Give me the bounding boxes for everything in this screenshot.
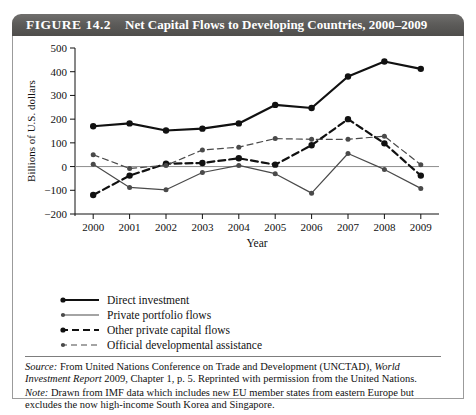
svg-text:400: 400 — [51, 66, 68, 78]
figure-number-label: FIGURE 14.2 — [12, 17, 111, 33]
source-text-1: From United Nations Conference on Trade … — [57, 361, 374, 372]
svg-text:2005: 2005 — [264, 221, 287, 233]
figure-container: FIGURE 14.2 Net Capital Flows to Develop… — [12, 14, 464, 399]
svg-text:2008: 2008 — [373, 221, 396, 233]
legend-label-other-private-capital-flows: Other private capital flows — [101, 324, 230, 336]
figure-title: Net Capital Flows to Developing Countrie… — [111, 17, 427, 33]
legend-key-other-private-capital-flows — [59, 323, 101, 337]
svg-text:2001: 2001 — [119, 221, 141, 233]
data-note: Note: Drawn from IMF data which includes… — [25, 387, 445, 412]
svg-text:2009: 2009 — [410, 221, 433, 233]
svg-text:2006: 2006 — [301, 221, 324, 233]
legend-key-official-developmental-assistance — [59, 338, 101, 352]
note-prefix: Note: — [25, 387, 48, 398]
notes-divider — [25, 356, 441, 357]
chart-plot-area: 5004003002001000−100−2002000200120022003… — [21, 40, 457, 290]
line-chart: 5004003002001000−100−2002000200120022003… — [21, 40, 457, 290]
legend-item-direct-investment: Direct investment — [59, 292, 389, 307]
legend-label-direct-investment: Direct investment — [101, 294, 189, 306]
svg-text:−100: −100 — [44, 184, 67, 196]
figure-body: 5004003002001000−100−2002000200120022003… — [12, 36, 464, 399]
svg-text:2004: 2004 — [228, 221, 251, 233]
svg-text:Year: Year — [246, 237, 267, 249]
legend-item-official-developmental-assistance: Official developmental assistance — [59, 337, 389, 352]
legend-label-private-portfolio-flows: Private portfolio flows — [101, 309, 211, 321]
svg-text:0: 0 — [62, 161, 68, 173]
svg-text:200: 200 — [51, 113, 68, 125]
legend-item-private-portfolio-flows: Private portfolio flows — [59, 307, 389, 322]
svg-text:−200: −200 — [44, 208, 67, 220]
source-prefix: Source: — [25, 361, 57, 372]
svg-text:100: 100 — [51, 137, 68, 149]
source-text-2: 2009, Chapter 1, p. 5. Reprinted with pe… — [102, 373, 417, 384]
legend-key-private-portfolio-flows — [59, 308, 101, 322]
svg-text:300: 300 — [51, 89, 68, 101]
svg-text:Billions of U.S. dollars: Billions of U.S. dollars — [25, 80, 37, 182]
figure-notes: Source: From United Nations Conference o… — [25, 361, 445, 413]
svg-text:2003: 2003 — [191, 221, 214, 233]
chart-legend: Direct investment Private portfolio flow… — [59, 292, 389, 352]
svg-text:2000: 2000 — [82, 221, 105, 233]
note-text: Drawn from IMF data which includes new E… — [25, 387, 414, 410]
svg-text:2002: 2002 — [155, 221, 177, 233]
svg-text:2007: 2007 — [337, 221, 360, 233]
legend-key-direct-investment — [59, 293, 101, 307]
source-note: Source: From United Nations Conference o… — [25, 361, 445, 386]
legend-item-other-private-capital-flows: Other private capital flows — [59, 322, 389, 337]
figure-header-bar: FIGURE 14.2 Net Capital Flows to Develop… — [12, 14, 464, 36]
legend-label-official-developmental-assistance: Official developmental assistance — [101, 339, 262, 351]
svg-text:500: 500 — [51, 42, 68, 54]
